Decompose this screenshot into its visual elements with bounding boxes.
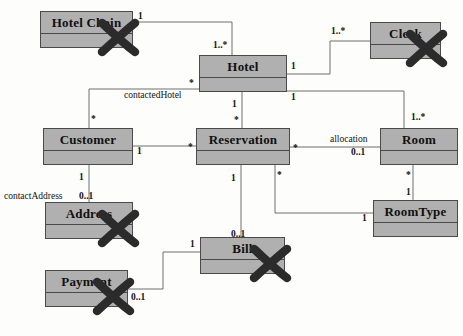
class-attributes-clerk [371,45,440,58]
class-name-payment: Payment [46,271,127,293]
multiplicity-label: 1 [79,172,84,182]
class-attributes-bill [201,260,284,273]
class-attributes-payment [46,293,127,306]
association-line-payment-bill [128,252,200,289]
association-line-hotel-room [287,91,404,128]
multiplicity-label: * [406,170,411,180]
multiplicity-label: 1 [190,239,195,249]
multiplicity-label: 1..* [213,40,227,50]
multiplicity-label: 1 [137,146,142,156]
multiplicity-label: 1 [291,92,296,102]
multiplicity-label: 1 [362,213,367,223]
role-label-contacted-hotel: contactedHotel [124,90,182,100]
multiplicity-label: 0..1 [351,147,365,157]
multiplicity-label: 1..* [411,112,425,122]
multiplicity-label: 1 [291,61,296,71]
class-name-clerk: Clerk [371,23,440,45]
class-box-room-type[interactable]: RoomType [373,200,458,237]
class-box-hotel-chain[interactable]: Hotel Chain [40,11,133,48]
multiplicity-label: 0..1 [131,292,145,302]
class-attributes-customer [44,151,132,164]
class-box-address[interactable]: Address [45,202,133,239]
multiplicity-label: 1 [231,173,236,183]
class-attributes-hotel [200,78,286,91]
class-name-address: Address [46,203,132,225]
class-name-hotel-chain: Hotel Chain [41,12,132,34]
class-name-room-type: RoomType [374,201,457,223]
multiplicity-label: * [293,143,298,153]
class-attributes-reservation [197,151,289,164]
multiplicity-label: 1 [232,99,237,109]
class-name-reservation: Reservation [197,129,289,151]
association-line-hotelchain-hotel [133,22,232,55]
class-name-bill: Bill [201,238,284,260]
class-box-customer[interactable]: Customer [43,128,133,165]
class-attributes-room-type [374,223,457,236]
multiplicity-label: 0..1 [231,229,245,239]
class-name-room: Room [381,129,457,151]
multiplicity-label: * [188,142,193,152]
multiplicity-label: * [234,115,239,125]
class-box-hotel[interactable]: Hotel [199,55,287,92]
class-box-bill[interactable]: Bill [200,237,285,274]
multiplicity-label: 1..* [331,26,345,36]
class-box-room[interactable]: Room [380,128,458,165]
class-box-clerk[interactable]: Clerk [370,22,441,59]
class-attributes-room [381,151,457,164]
class-name-hotel: Hotel [200,56,286,78]
role-label-reservation-room: allocation [330,134,367,144]
multiplicity-label: 0..1 [79,191,93,201]
association-line-reservation-roomtype [275,165,373,213]
class-attributes-address [46,225,132,238]
role-label-customer-address: contactAddress [4,191,63,201]
multiplicity-label: * [91,114,96,124]
multiplicity-label: 1 [406,187,411,197]
multiplicity-label: 1 [138,11,143,21]
class-attributes-hotel-chain [41,34,132,47]
class-name-customer: Customer [44,129,132,151]
multiplicity-label: * [277,170,282,180]
class-diagram-canvas: Hotel ChainHotelClerkCustomerReservation… [0,0,463,336]
class-box-payment[interactable]: Payment [45,270,128,307]
multiplicity-label: * [189,78,194,88]
class-box-reservation[interactable]: Reservation [196,128,290,165]
association-line-hotel-clerk [287,41,370,74]
